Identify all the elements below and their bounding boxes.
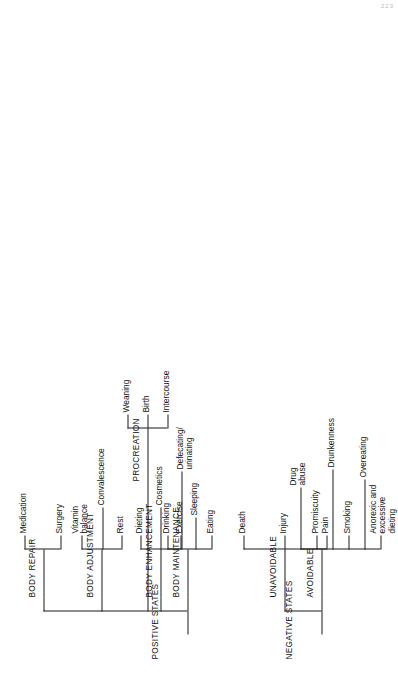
body-maintenance-spine [167, 548, 211, 549]
leaf-stub-drug-abuse [300, 487, 301, 549]
leaf-stub-drinking [167, 535, 168, 549]
leaf-defecating-urinating: Defecating/ urinating [175, 427, 194, 469]
body-adjustment-stem [101, 549, 102, 597]
leaf-stub-drunkenness [332, 469, 333, 549]
leaf-stub-smoking [348, 535, 349, 549]
leaf-stub-weaning [127, 414, 128, 428]
negative-level1-spine [284, 610, 321, 611]
leaf-stub-promiscuity [316, 535, 317, 549]
leaf-stub-birth [147, 414, 148, 428]
leaf-stub-overeating [364, 479, 365, 549]
leaf-drug-abuse: Drug abuse [288, 462, 307, 485]
leaf-birth: Birth [141, 395, 150, 412]
body-enhancement-label: BODY ENHANCEMENT [144, 503, 153, 597]
leaf-death: Death [237, 511, 246, 533]
leaf-stub-vitamin-balance [81, 535, 82, 549]
leaf-stub-injury [284, 535, 285, 549]
branch-stub-unavoidable [284, 597, 285, 611]
body-enhancement-stem [160, 549, 161, 597]
leaf-sleeping: Sleeping [189, 482, 198, 515]
leaf-smoking: Smoking [342, 500, 351, 533]
leaf-vitamin-balance: Vitamin balance [70, 504, 89, 533]
body-maintenance-label: BODY MAINTENANCE [171, 506, 180, 597]
leaf-stub-death [243, 535, 244, 549]
body-maintenance-stem [187, 549, 188, 597]
leaf-stub-pain [326, 535, 327, 549]
leaf-stub-defecating [181, 471, 182, 549]
avoidable-stem [321, 549, 322, 597]
leaf-cosmetics: Cosmetics [154, 466, 163, 505]
avoidable-label: AVOIDABLE [305, 548, 314, 597]
leaf-convalescence: Convalescence [96, 448, 105, 505]
leaf-injury: Injury [278, 513, 287, 533]
body-repair-label: BODY REPAIR [27, 538, 36, 597]
leaf-dieting: Dieting [134, 507, 143, 533]
branch-stub-body-repair [43, 597, 44, 611]
leaf-stub-dieting [140, 535, 141, 549]
branch-stub-body-adjustment [101, 597, 102, 611]
leaf-pain: Pain [320, 516, 329, 533]
positive-level1-spine [43, 610, 187, 611]
leaf-eating: Eating [205, 509, 214, 533]
leaf-stub-surgery [60, 535, 61, 549]
body-repair-spine [24, 548, 60, 549]
leaf-medication: Medication [18, 492, 27, 533]
leaf-surgery: Surgery [54, 504, 63, 533]
leaf-stub-convalescence [102, 507, 103, 549]
leaf-anorexic-excessive-dieting: Anorexic and excessive dieting [368, 484, 396, 533]
body-adjustment-spine [81, 548, 121, 549]
leaf-drinking: Drinking [161, 502, 170, 533]
leaf-stub-rest [121, 535, 122, 549]
leaf-intercourse: Intercourse [161, 370, 170, 412]
branch-stub-avoidable [321, 597, 322, 611]
leaf-stub-anorexic [380, 535, 381, 549]
leaf-overeating: Overeating [358, 436, 367, 477]
leaf-drunkenness: Drunkenness [326, 418, 335, 467]
leaf-rest: Rest [115, 516, 124, 533]
branch-stub-body-enhancement [160, 597, 161, 611]
figure-page: 223 POSITIVE STATES BODY REPAIR [0, 0, 398, 677]
leaf-stub-eating [211, 535, 212, 549]
avoidable-spine [300, 548, 380, 549]
leaf-stub-sleeping [195, 517, 196, 549]
body-repair-stem [43, 549, 44, 597]
leaf-stub-medication [24, 535, 25, 549]
positive-root-stem [187, 611, 188, 634]
negative-root-stem [321, 611, 322, 634]
taxonomy-diagram: POSITIVE STATES BODY REPAIR Medication S… [0, 0, 398, 677]
leaf-stub-intercourse [167, 414, 168, 428]
unavoidable-stem [284, 549, 285, 597]
unavoidable-label: UNAVOIDABLE [268, 536, 277, 597]
branch-stub-procreation [147, 597, 148, 611]
leaf-weaning: Weaning [121, 379, 130, 412]
leaf-promiscuity: Promiscuity [310, 490, 319, 533]
branch-stub-body-maintenance [187, 597, 188, 611]
